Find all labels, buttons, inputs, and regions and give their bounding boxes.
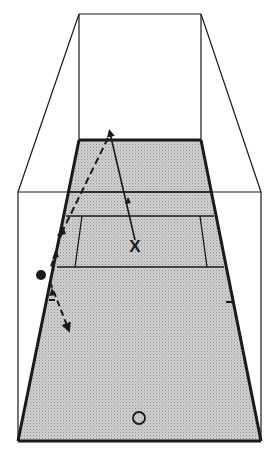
front-wall bbox=[79, 14, 201, 140]
court-svg: X bbox=[0, 0, 270, 462]
court-floor bbox=[18, 140, 261, 441]
ball bbox=[36, 270, 46, 280]
player-x-marker: X bbox=[129, 237, 141, 256]
